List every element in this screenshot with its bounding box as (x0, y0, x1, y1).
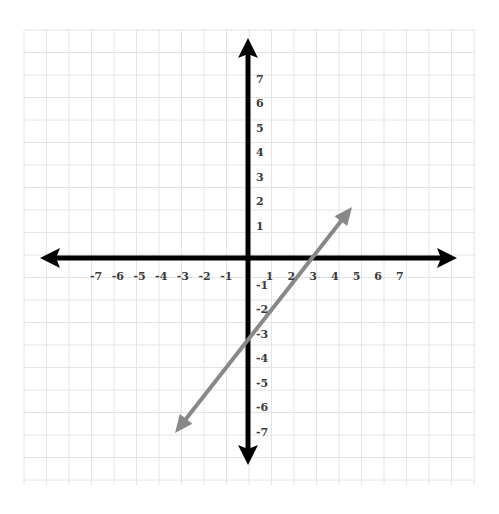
x-tick-label: -2 (198, 270, 210, 283)
x-tick-label: 4 (331, 270, 339, 283)
x-tick-label: -1 (220, 270, 232, 283)
y-tick-label: 3 (256, 171, 264, 184)
y-tick-label: -1 (256, 279, 268, 292)
coordinate-plane: -7-6-5-4-3-2-11234567 7654321-1-2-3-4-5-… (0, 0, 499, 514)
plotted-line (175, 207, 352, 433)
x-tick-label: 6 (374, 270, 382, 283)
y-tick-label: 6 (256, 97, 264, 110)
y-tick-label: 5 (256, 122, 264, 135)
y-tick-label: -4 (256, 352, 269, 365)
y-tick-label: -6 (256, 401, 269, 414)
x-tick-label: 3 (309, 270, 317, 283)
y-tick-label: -2 (256, 303, 268, 316)
x-tick-label: -6 (112, 270, 125, 283)
x-tick-label: -3 (177, 270, 189, 283)
x-tick-label: 7 (396, 270, 404, 283)
axes (40, 38, 457, 465)
y-tick-label: 7 (256, 73, 264, 86)
x-tick-label: -5 (133, 270, 145, 283)
x-tick-label: -4 (155, 270, 168, 283)
y-tick-label: -5 (256, 377, 268, 390)
y-tick-label: 2 (256, 195, 264, 208)
y-tick-label: -3 (256, 328, 268, 341)
y-tick-label: 4 (256, 146, 264, 159)
y-tick-label: -7 (256, 426, 268, 439)
x-tick-label: -7 (90, 270, 102, 283)
x-tick-label: 2 (288, 270, 296, 283)
y-tick-label: 1 (256, 220, 264, 233)
x-tick-label: 5 (353, 270, 361, 283)
